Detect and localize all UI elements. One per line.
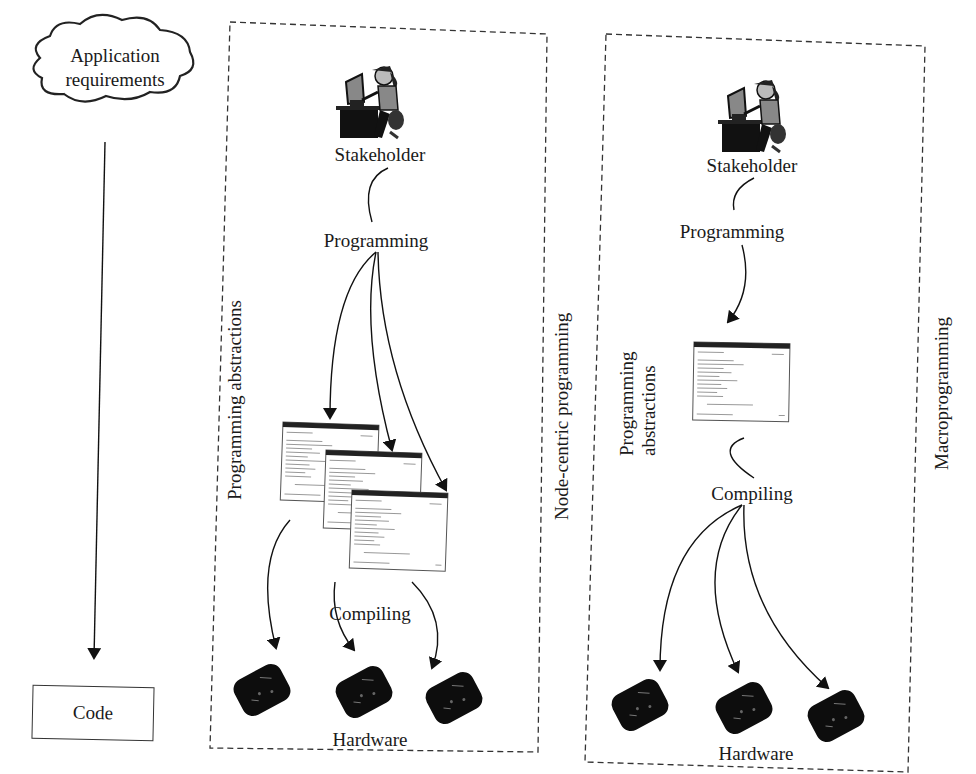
node-centric-title: Node-centric programming <box>552 313 571 520</box>
sensor-node-icon <box>230 660 295 720</box>
sensor-node-icon <box>422 668 487 728</box>
code-box: Code <box>31 685 154 742</box>
mp-compiling-label: Compiling <box>711 484 792 503</box>
nc-compiling-label: Compiling <box>329 604 410 623</box>
requirements-label: Application requirements <box>40 44 190 92</box>
nc-stakeholder-label: Stakeholder <box>335 145 426 164</box>
code-label: Code <box>73 702 114 725</box>
sensor-node-icon <box>712 678 777 738</box>
mp-programming-label: Programming <box>680 222 785 241</box>
program-window-icon <box>349 490 448 571</box>
mp-abstractions-label: Programming abstractions <box>616 296 660 456</box>
nc-abstractions-label: Programming abstractions <box>224 300 246 500</box>
sensor-node-icon <box>332 662 397 722</box>
macroprogramming-title: Macroprogramming <box>932 317 951 470</box>
mp-hardware-label: Hardware <box>719 744 794 763</box>
nc-hardware-label: Hardware <box>333 730 408 749</box>
stakeholder-icon <box>718 80 786 152</box>
mp-stakeholder-label: Stakeholder <box>707 156 798 175</box>
requirements-to-code-arrow <box>94 142 105 658</box>
nc-programming-label: Programming <box>324 231 429 250</box>
program-window-icon <box>693 342 790 422</box>
sensor-node-icon <box>804 686 869 746</box>
diagram-canvas <box>0 0 976 774</box>
sensor-node-icon <box>608 675 673 735</box>
stakeholder-icon <box>336 66 404 138</box>
